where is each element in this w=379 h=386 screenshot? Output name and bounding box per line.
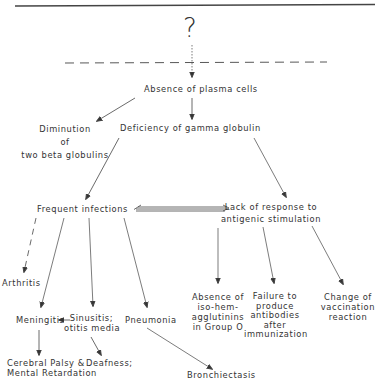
node-cerebral-palsy: Cerebral Palsy & Mental Retardation [7,358,97,378]
node-meningitis: Meningitis [16,315,65,326]
edge-deficiency-to-lack [254,138,286,197]
node-diminution-beta-globulins: Diminution of two beta globulins [20,123,110,162]
node-bronchiectasis: Bronchiectasis [187,370,256,381]
node-diminution-line-3: two beta globulins [20,149,110,162]
node-vaccination-line-2: vaccination [320,302,376,312]
node-deafness: Deafness; [86,358,133,369]
node-cerebral-line-1: Cerebral Palsy & [7,358,97,368]
dashed-separator [65,62,327,63]
node-sinusitis-line-1: Sinusitis; [64,313,119,323]
node-isohem-line-4: in Group O [188,322,248,332]
node-failure-produce-antibodies: Failure to produce antibodies after immu… [244,292,306,340]
node-lack-of-response: Lack of response to antigenic stimulatio… [206,201,336,225]
node-change-vaccination-reaction: Change of vaccination reaction [320,292,376,322]
edge-infections-to-arthritis [24,218,36,272]
node-failure-line-5: immunization [244,330,306,340]
node-isohem-line-3: agglutinins [188,312,248,322]
edge-pneumonia-to-bronchiectasis [147,328,212,369]
node-cerebral-line-2: Mental Retardation [7,368,97,378]
node-lack-line-2: antigenic stimulation [206,213,336,225]
node-diminution-line-1: Diminution [20,123,110,136]
unknown-cause-question-mark: ? [183,13,197,43]
edge-absence-to-diminution [97,98,135,121]
node-lack-line-1: Lack of response to [206,201,336,213]
node-sinusitis-otitis: Sinusitis; otitis media [64,313,119,333]
node-vaccination-line-3: reaction [320,312,376,322]
node-sinusitis-line-2: otitis media [64,323,119,333]
edge-lack-to-vaccination [312,226,343,284]
edge-lack-to-failure [263,227,274,283]
edge-infections-to-sinusitis [89,218,93,306]
edge-sinusitis-to-deafness [91,337,101,355]
node-deficiency-gamma-globulin: Deficiency of gamma globulin [120,123,261,134]
node-arthritis: Arthritis [2,278,41,289]
top-rule [15,5,375,7]
node-vaccination-line-1: Change of [320,292,376,302]
node-absence-isohemagglutinins: Absence of iso-hem- agglutinins in Group… [188,292,248,332]
node-pneumonia: Pneumonia [125,315,177,326]
node-isohem-line-2: iso-hem- [188,302,248,312]
node-absence-of-plasma-cells: Absence of plasma cells [144,84,258,95]
edge-infections-to-pneumonia [124,218,147,307]
node-frequent-infections: Frequent infections [37,204,128,215]
node-diminution-line-2: of [20,136,110,149]
edge-infections-to-meningitis [41,218,64,307]
node-isohem-line-1: Absence of [188,292,248,302]
